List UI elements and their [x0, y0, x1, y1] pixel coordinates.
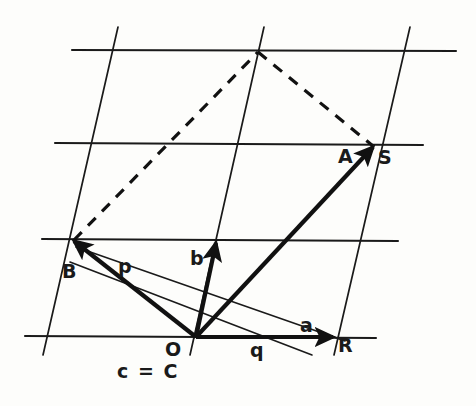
figure-canvas: ASBORabpqc = C: [0, 0, 476, 406]
lattice-horizontal-group: [25, 50, 456, 338]
label-line-p: p: [118, 257, 132, 276]
dashed-line-group: [74, 52, 373, 240]
label-equation-c: c = C: [117, 362, 179, 381]
label-line-q: q: [250, 341, 264, 360]
vector-OS: [196, 147, 373, 337]
vector-arrow-group: [74, 147, 373, 337]
label-point-B: B: [62, 262, 76, 281]
vector-OB: [74, 241, 196, 337]
lattice-row-1: [72, 50, 456, 51]
lattice-col-3: [334, 27, 410, 355]
lattice-row-3: [42, 239, 398, 241]
label-point-A: A: [338, 147, 353, 166]
lattice-col-1: [43, 27, 118, 355]
line-q-through-O: [70, 262, 312, 355]
label-vector-b: b: [190, 249, 204, 268]
figure-svg: [0, 0, 476, 406]
label-point-O: O: [165, 340, 181, 359]
label-point-R: R: [338, 336, 353, 355]
dashed-apex-to-S: [258, 52, 373, 146]
dashed-B-to-apex: [74, 52, 258, 240]
label-vector-a: a: [300, 316, 313, 335]
label-point-S: S: [378, 148, 392, 167]
